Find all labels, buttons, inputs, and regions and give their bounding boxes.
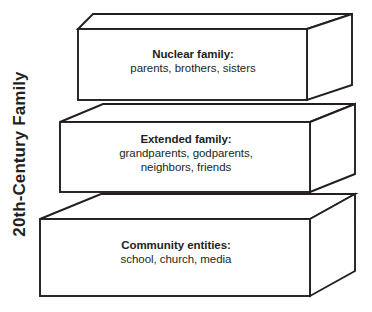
box-extended-detail-line-1: grandparents, godparents, <box>62 146 310 160</box>
box-community-title: Community entities: <box>42 238 310 252</box>
box-nuclear-detail: parents, brothers, sisters <box>80 61 306 75</box>
box-nuclear-title: Nuclear family: <box>80 47 306 61</box>
box-community-label: Community entities: school, church, medi… <box>42 238 310 266</box>
box-extended-label: Extended family: grandparents, godparent… <box>62 132 310 174</box>
box-extended-top-face <box>60 104 355 122</box>
box-extended-title: Extended family: <box>62 132 310 146</box>
box-nuclear-right-face <box>307 14 352 100</box>
box-community-detail: school, church, media <box>42 252 310 266</box>
box-community-top-face <box>40 194 355 219</box>
family-layers-diagram: 20th-Century Family Nuclear family: pare… <box>0 0 372 312</box>
box-nuclear-label: Nuclear family: parents, brothers, siste… <box>80 47 306 75</box>
box-extended-detail-line-2: neighbors, friends <box>62 160 310 174</box>
